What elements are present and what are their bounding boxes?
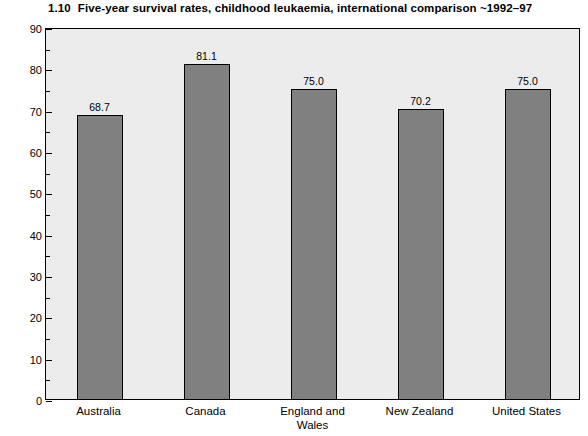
chart-title-text: Five-year survival rates, childhood leuk… <box>78 2 532 14</box>
y-tick-minor <box>46 380 50 381</box>
y-tick-label: 90 <box>30 24 42 35</box>
bar-value-label: 81.1 <box>196 50 216 62</box>
bar: 75.0 <box>291 89 337 399</box>
x-axis-category-label: England and Wales <box>259 404 366 432</box>
y-tick-label: 20 <box>30 313 42 324</box>
plot-area: 0102030405060708090 68.781.175.070.275.0 <box>45 28 580 400</box>
y-tick-minor <box>46 298 50 299</box>
bar-value-label: 75.0 <box>517 75 537 87</box>
y-tick-minor <box>46 91 50 92</box>
y-tick-major <box>46 318 52 319</box>
x-axis-category-label: Canada <box>152 404 259 418</box>
bar-value-label: 75.0 <box>303 75 323 87</box>
y-tick-minor <box>46 339 50 340</box>
y-tick-minor <box>46 174 50 175</box>
chart-title-number: 1.10 <box>48 2 71 14</box>
bar: 68.7 <box>77 115 123 399</box>
bar: 81.1 <box>184 64 230 399</box>
y-tick-label: 70 <box>30 106 42 117</box>
y-tick-major <box>46 360 52 361</box>
y-tick-label: 50 <box>30 189 42 200</box>
y-tick-label: 80 <box>30 65 42 76</box>
x-axis-category-label: New Zealand <box>366 404 473 418</box>
y-tick-major <box>46 29 52 30</box>
y-tick-major <box>46 401 52 402</box>
bar-value-label: 68.7 <box>89 101 109 113</box>
y-tick-major <box>46 277 52 278</box>
y-tick-major <box>46 194 52 195</box>
bar: 70.2 <box>398 109 444 399</box>
y-tick-minor <box>46 256 50 257</box>
y-tick-major <box>46 236 52 237</box>
y-tick-label: 40 <box>30 230 42 241</box>
y-tick-minor <box>46 215 50 216</box>
x-axis-category-label: United States <box>473 404 580 418</box>
y-tick-label: 0 <box>36 396 42 407</box>
y-tick-minor <box>46 50 50 51</box>
y-tick-label: 60 <box>30 148 42 159</box>
y-tick-major <box>46 153 52 154</box>
y-tick-major <box>46 112 52 113</box>
x-axis-category-label: Australia <box>45 404 152 418</box>
y-tick-minor <box>46 132 50 133</box>
y-tick-label: 30 <box>30 272 42 283</box>
y-tick-label: 10 <box>30 354 42 365</box>
chart-title: 1.10Five-year survival rates, childhood … <box>48 2 532 14</box>
bar-value-label: 70.2 <box>410 95 430 107</box>
bar: 75.0 <box>505 89 551 399</box>
y-tick-major <box>46 70 52 71</box>
